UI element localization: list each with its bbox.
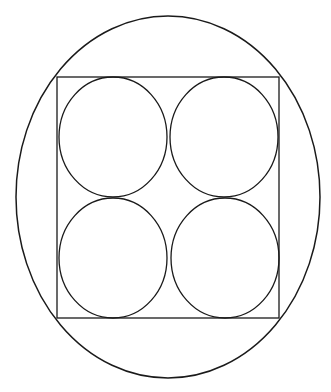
circle-bottom-right [171, 198, 279, 318]
inscribed-square [57, 77, 279, 318]
outer-ellipse [16, 16, 320, 378]
inner-circles [59, 77, 279, 318]
circle-top-right [170, 77, 278, 197]
diagram-canvas [0, 0, 331, 392]
circle-bottom-left [59, 198, 167, 318]
circle-top-left [59, 77, 167, 197]
